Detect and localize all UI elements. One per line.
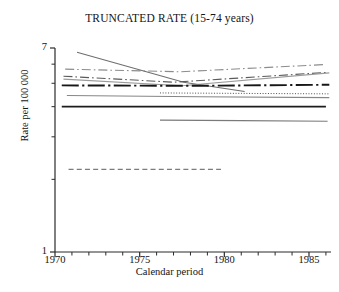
x-tick-label: 1975 <box>120 254 160 265</box>
series-line-5 <box>62 85 330 86</box>
x-tick-label: 1980 <box>204 254 244 265</box>
plot-area <box>0 0 339 292</box>
series-line-3 <box>63 72 327 82</box>
x-tick-label: 1970 <box>35 254 75 265</box>
x-tick-label: 1985 <box>289 254 329 265</box>
series-line-6 <box>160 93 329 94</box>
chart-container: TRUNCATED RATE (15-74 years) Rate per 10… <box>0 0 339 292</box>
series-line-1 <box>65 65 326 72</box>
series-line-9 <box>160 120 328 121</box>
y-tick-label: 7 <box>23 41 47 52</box>
series-line-7 <box>67 95 329 97</box>
